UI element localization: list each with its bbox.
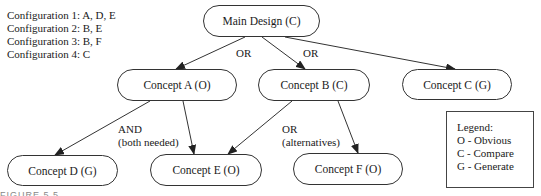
figure-caption: FIGURE 5.5 — [0, 190, 59, 196]
node-concept-a: Concept A (O) — [117, 69, 237, 101]
legend-item-obvious: O - Obvious — [457, 134, 533, 147]
legend-item-generate: G - Generate — [457, 160, 533, 173]
legend-item-compare: C - Compare — [457, 147, 533, 160]
node-concept-f: Concept F (O) — [293, 153, 403, 185]
node-concept-c: Concept C (G) — [402, 69, 512, 100]
edge-b-f — [338, 101, 358, 153]
edge-label-main-b-or: OR — [303, 47, 318, 60]
edge-a-e — [183, 101, 194, 154]
edge-label-and: AND — [118, 123, 142, 136]
legend-box: Legend: O - Obvious C - Compare G - Gene… — [446, 111, 534, 188]
node-concept-e: Concept E (O) — [150, 154, 262, 186]
node-concept-b: Concept B (C) — [258, 69, 370, 101]
node-concept-d: Concept D (G) — [7, 155, 118, 186]
edge-label-or: OR — [282, 123, 297, 136]
edge-main-b — [262, 37, 305, 69]
edge-label-main-a-or: OR — [236, 47, 251, 60]
edge-label-or-note: (alternatives) — [282, 136, 340, 149]
node-main-design: Main Design (C) — [203, 5, 320, 37]
edge-main-a — [176, 37, 245, 69]
edge-label-and-note: (both needed) — [118, 136, 179, 149]
legend-title: Legend: — [457, 121, 533, 134]
